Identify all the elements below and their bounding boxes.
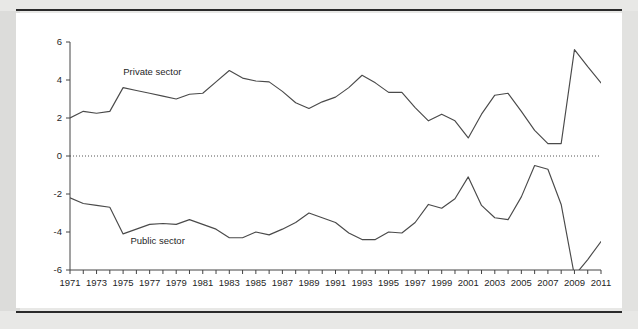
x-tick-label: 2011	[591, 277, 611, 288]
x-tick-label: 1997	[405, 277, 426, 288]
y-tick-label: 2	[57, 112, 62, 123]
series-line-private-sector	[70, 50, 601, 144]
x-tick-label: 1975	[113, 277, 134, 288]
x-tick-label: 1985	[245, 277, 266, 288]
y-tick-label: -2	[54, 188, 62, 199]
scanned-figure-page: -6-4-20246 19711973197519771979198119831…	[0, 0, 638, 329]
x-tick-label: 1991	[325, 277, 346, 288]
y-tick-label: -4	[54, 226, 62, 237]
x-tick-label: 1979	[166, 277, 187, 288]
chart-svg: -6-4-20246 19711973197519771979198119831…	[0, 0, 638, 329]
y-tick-label: 6	[57, 36, 62, 47]
x-tick-label: 1989	[298, 277, 319, 288]
y-tick-label: -6	[54, 264, 62, 275]
x-tick-label: 1973	[86, 277, 107, 288]
x-tick-label: 1995	[378, 277, 399, 288]
y-axis-tick-labels: -6-4-20246	[54, 36, 62, 275]
x-tick-label: 2003	[484, 277, 505, 288]
series-label-public-sector: Public sector	[130, 235, 184, 246]
x-tick-label: 1977	[139, 277, 160, 288]
series-label-private-sector: Private sector	[123, 66, 181, 77]
x-tick-label: 1987	[272, 277, 293, 288]
x-tick-label: 2001	[458, 277, 479, 288]
y-tick-label: 0	[57, 150, 62, 161]
y-axis-ticks	[66, 42, 70, 270]
y-tick-label: 4	[57, 74, 62, 85]
x-axis-ticks	[70, 270, 601, 274]
x-tick-label: 1983	[219, 277, 240, 288]
x-tick-label: 2007	[537, 277, 558, 288]
x-tick-label: 1993	[351, 277, 372, 288]
line-chart: -6-4-20246 19711973197519771979198119831…	[0, 0, 638, 329]
x-axis-tick-labels: 1971197319751977197919811983198519871989…	[59, 277, 611, 288]
x-tick-label: 1999	[431, 277, 452, 288]
x-tick-label: 1971	[59, 277, 80, 288]
x-tick-label: 2005	[511, 277, 532, 288]
series-line-public-sector	[70, 166, 601, 276]
x-tick-label: 2009	[564, 277, 585, 288]
x-tick-label: 1981	[192, 277, 213, 288]
